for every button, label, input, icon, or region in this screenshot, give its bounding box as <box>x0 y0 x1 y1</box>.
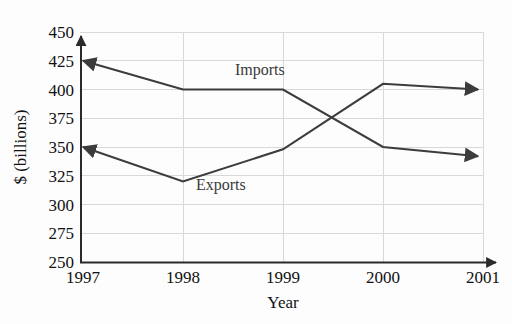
y-tick-425: 425 <box>49 52 75 71</box>
series-annotation-imports: Imports <box>235 61 285 79</box>
y-tick-350: 350 <box>49 138 75 157</box>
x-axis-tick-labels: 1997 1998 1999 2000 2001 <box>66 268 500 287</box>
series-annotation-exports: Exports <box>196 176 246 194</box>
y-tick-275: 275 <box>49 224 75 243</box>
x-tick-2001: 2001 <box>466 268 500 287</box>
line-chart: 450 425 400 375 350 325 300 275 250 1997… <box>0 0 512 324</box>
y-tick-300: 300 <box>49 196 75 215</box>
x-tick-2000: 2000 <box>366 268 400 287</box>
chart-canvas: 450 425 400 375 350 325 300 275 250 1997… <box>0 0 512 324</box>
x-tick-1997: 1997 <box>66 268 101 287</box>
y-tick-375: 375 <box>49 109 75 128</box>
x-axis-title: Year <box>267 293 299 312</box>
y-axis-title: $ (billions) <box>11 109 30 184</box>
y-tick-400: 400 <box>49 81 75 100</box>
x-tick-1999: 1999 <box>266 268 300 287</box>
y-tick-325: 325 <box>49 167 75 186</box>
x-tick-1998: 1998 <box>166 268 200 287</box>
y-axis-tick-labels: 450 425 400 375 350 325 300 275 250 <box>49 23 75 272</box>
y-tick-450: 450 <box>49 23 75 42</box>
